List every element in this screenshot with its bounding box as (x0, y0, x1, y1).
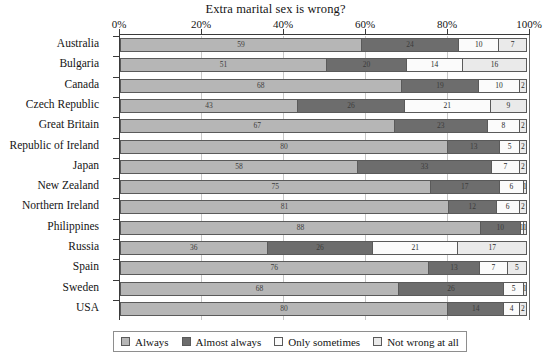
bar-segment[interactable]: 2 (519, 302, 527, 316)
bar-segment[interactable]: 20 (326, 58, 407, 72)
stacked-bar[interactable]: 881011 (120, 221, 530, 235)
bar-segment[interactable]: 12 (448, 200, 497, 214)
y-axis-tick (113, 138, 119, 139)
bar-segment[interactable]: 26 (398, 282, 505, 296)
bar-segment[interactable]: 88 (120, 221, 481, 235)
bar-segment[interactable]: 4 (503, 302, 519, 316)
stacked-bar[interactable]: 811262 (120, 200, 530, 214)
bar-value-label: 2 (521, 82, 525, 90)
bar-segment[interactable]: 5 (503, 282, 524, 296)
bar-value-label: 7 (504, 163, 508, 171)
category-label: Spain (0, 259, 99, 273)
bar-segment[interactable]: 36 (120, 241, 268, 255)
bar-segment[interactable]: 2 (519, 119, 527, 133)
chart-row: Bulgaria51201416 (119, 56, 529, 76)
bar-segment[interactable]: 17 (430, 180, 500, 194)
bar-segment[interactable]: 26 (267, 241, 374, 255)
bar-segment[interactable]: 80 (120, 140, 448, 154)
bar-segment[interactable]: 7 (498, 38, 527, 52)
bar-segment[interactable]: 17 (457, 241, 527, 255)
legend-swatch (182, 337, 191, 346)
category-label: Sweden (0, 280, 99, 294)
bar-segment[interactable]: 33 (357, 160, 492, 174)
bar-segment[interactable]: 6 (499, 180, 524, 194)
category-label: Bulgaria (0, 56, 99, 70)
bar-segment[interactable]: 68 (120, 79, 402, 93)
x-axis-tick (201, 29, 202, 35)
bar-segment[interactable]: 2 (519, 79, 527, 93)
chart-row: Australia5924107 (119, 36, 529, 56)
bar-segment[interactable]: 2 (519, 160, 527, 174)
stacked-bar[interactable]: 761375 (120, 261, 530, 275)
stacked-bar[interactable]: 672382 (120, 119, 530, 133)
bar-segment[interactable]: 58 (120, 160, 358, 174)
bar-segment[interactable]: 81 (120, 200, 449, 214)
stacked-bar[interactable]: 801352 (120, 140, 530, 154)
stacked-bar[interactable]: 801442 (120, 302, 530, 316)
legend-item[interactable]: Not wrong at all (373, 336, 459, 348)
bar-segment[interactable]: 5 (499, 140, 520, 154)
bar-segment[interactable]: 1 (523, 282, 527, 296)
stacked-bar[interactable]: 751761 (120, 180, 530, 194)
bar-segment[interactable]: 21 (404, 99, 491, 113)
bar-segment[interactable]: 21 (372, 241, 458, 255)
bar-segment[interactable]: 10 (480, 221, 521, 235)
stacked-bar[interactable]: 36262117 (120, 241, 530, 255)
bar-segment[interactable]: 7 (491, 160, 520, 174)
bar-segment[interactable]: 14 (406, 58, 463, 72)
bar-segment[interactable]: 43 (120, 99, 298, 113)
bar-segment[interactable]: 23 (394, 119, 488, 133)
bar-segment[interactable]: 7 (479, 261, 507, 275)
bar-segment[interactable]: 75 (120, 180, 431, 194)
bar-value-label: 7 (492, 264, 496, 272)
chart-row: Canada6819102 (119, 77, 529, 97)
bar-segment[interactable]: 1 (523, 221, 527, 235)
stacked-bar[interactable]: 682651 (120, 282, 530, 296)
bar-segment[interactable]: 13 (447, 140, 500, 154)
bar-value-label: 8 (502, 122, 506, 130)
bar-value-label: 26 (447, 285, 455, 293)
chart-row: USA801442 (119, 300, 529, 320)
bar-segment[interactable]: 59 (120, 38, 362, 52)
bar-segment[interactable]: 10 (478, 79, 519, 93)
bar-segment[interactable]: 67 (120, 119, 395, 133)
bar-value-label: 12 (468, 203, 476, 211)
legend-item[interactable]: Only sometimes (274, 336, 360, 348)
stacked-bar[interactable]: 51201416 (120, 58, 530, 72)
bar-segment[interactable]: 6 (496, 200, 520, 214)
legend-item[interactable]: Almost always (182, 336, 262, 348)
bar-segment[interactable]: 1 (523, 180, 527, 194)
bar-segment[interactable]: 10 (458, 38, 499, 52)
bar-value-label: 19 (436, 82, 444, 90)
stacked-bar[interactable]: 583372 (120, 160, 530, 174)
legend-swatch (274, 337, 283, 346)
bar-segment[interactable]: 68 (120, 282, 399, 296)
bar-segment[interactable]: 16 (462, 58, 527, 72)
bar-value-label: 80 (280, 143, 288, 151)
bar-segment[interactable]: 8 (487, 119, 520, 133)
y-axis-tick (113, 219, 119, 220)
bar-segment[interactable]: 26 (297, 99, 405, 113)
bar-value-label: 14 (431, 61, 439, 69)
bar-segment[interactable]: 14 (447, 302, 504, 316)
chart-row: Spain761375 (119, 259, 529, 279)
stacked-bar[interactable]: 4326219 (120, 99, 530, 113)
y-axis-tick (113, 36, 119, 37)
bar-segment[interactable]: 80 (120, 302, 448, 316)
stacked-bar[interactable]: 5924107 (120, 38, 530, 52)
bar-value-label: 81 (281, 203, 289, 211)
bar-segment[interactable]: 51 (120, 58, 327, 72)
bar-segment[interactable]: 2 (519, 140, 527, 154)
chart-row: Republic of Ireland801352 (119, 138, 529, 158)
bar-segment[interactable]: 2 (519, 200, 527, 214)
bar-segment[interactable]: 9 (490, 99, 527, 113)
bar-segment[interactable]: 76 (120, 261, 429, 275)
bar-segment[interactable]: 19 (401, 79, 480, 93)
bar-segment[interactable]: 24 (361, 38, 459, 52)
stacked-bar[interactable]: 6819102 (120, 79, 530, 93)
bar-value-label: 26 (347, 102, 355, 110)
legend-item[interactable]: Always (121, 336, 169, 348)
chart-title: Extra marital sex is wrong? (0, 2, 551, 17)
bar-segment[interactable]: 5 (507, 261, 527, 275)
bar-segment[interactable]: 13 (428, 261, 481, 275)
